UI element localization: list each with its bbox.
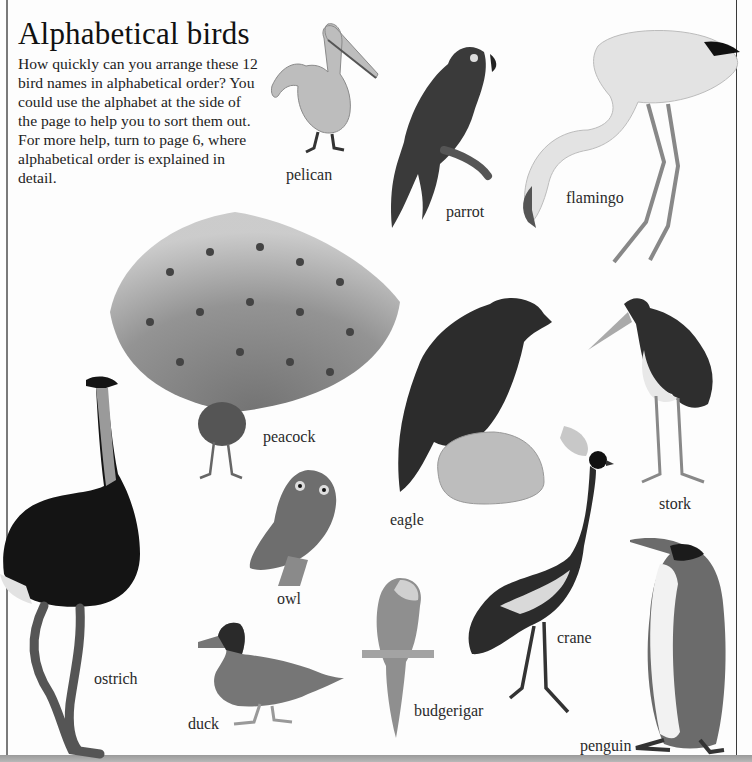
penguin-label: penguin — [580, 738, 632, 754]
stork-label: stork — [659, 496, 691, 512]
duck-label: duck — [188, 716, 219, 732]
owl-label: owl — [277, 591, 301, 607]
crane-image — [460, 426, 614, 718]
ostrich-label: ostrich — [94, 671, 138, 687]
owl-image — [248, 468, 340, 586]
budgerigar-label: budgerigar — [414, 703, 483, 719]
ostrich-image — [0, 374, 142, 756]
intro-paragraph: How quickly can you arrange these 12 bir… — [18, 54, 263, 187]
duck-image — [198, 620, 344, 732]
pelican-image — [266, 16, 382, 156]
parrot-label: parrot — [446, 204, 484, 220]
book-page: Alphabetical birds How quickly can you a… — [0, 0, 752, 762]
flamingo-label: flamingo — [566, 190, 624, 206]
eagle-label: eagle — [390, 512, 424, 528]
flamingo-image — [518, 26, 744, 266]
crane-label: crane — [557, 630, 592, 646]
pelican-label: pelican — [286, 167, 332, 183]
peacock-label: peacock — [263, 429, 315, 445]
page-title: Alphabetical birds — [18, 18, 250, 49]
penguin-image — [630, 534, 728, 754]
page-bottom-edge — [0, 755, 752, 762]
